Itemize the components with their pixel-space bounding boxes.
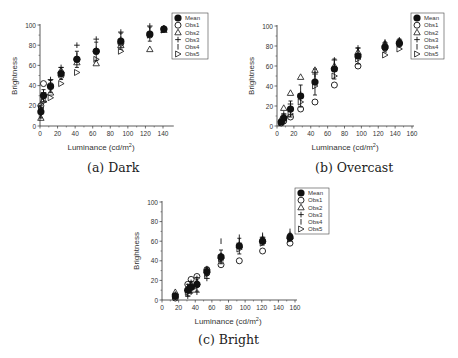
y-axis-label: Brightness — [132, 232, 141, 270]
x-tick-label: 60 — [208, 304, 216, 311]
obs3-marker — [185, 293, 191, 299]
y-tick-label: 80 — [151, 218, 159, 225]
mean-marker — [160, 25, 167, 32]
mean-marker — [93, 48, 100, 55]
legend: MeanObs1Obs2Obs3Obs4Obs5 — [411, 13, 444, 59]
x-tick-label: 60 — [324, 130, 332, 137]
x-tick-label: 20 — [54, 130, 62, 137]
y-tick-label: 80 — [266, 43, 274, 50]
legend-label: Obs1 — [185, 22, 200, 28]
obs3-marker — [147, 23, 153, 29]
x-tick-label: 0 — [160, 304, 164, 311]
mean-marker — [286, 234, 293, 241]
obs2-marker — [287, 90, 293, 96]
y-tick-label: 20 — [266, 103, 274, 110]
obs5-marker — [383, 52, 388, 58]
mean-marker — [297, 92, 304, 99]
x-tick-label: 0 — [38, 130, 42, 137]
legend-label: Obs4 — [185, 44, 200, 50]
y-tick-label: 100 — [262, 23, 273, 30]
obs5-marker — [75, 69, 80, 75]
obs1-marker — [331, 82, 337, 88]
legend-label: Obs3 — [308, 212, 323, 218]
y-tick-label: 80 — [29, 42, 37, 49]
legend-label: Obs1 — [424, 22, 439, 28]
mean-marker — [193, 281, 200, 288]
legend-label: Obs5 — [424, 51, 439, 57]
legend-label: Obs1 — [308, 197, 323, 203]
x-tick-label: 100 — [240, 304, 251, 311]
caption-bright: (c) Bright — [198, 332, 259, 347]
mean-marker — [40, 92, 47, 99]
y-tick-label: 0 — [32, 123, 36, 130]
x-axis-label: Luminance (cd/m2) — [311, 142, 378, 152]
x-tick-label: 80 — [341, 130, 349, 137]
x-tick-label: 120 — [256, 304, 267, 311]
x-tick-label: 40 — [72, 130, 80, 137]
obs5-marker — [48, 95, 53, 101]
mean-marker — [259, 238, 266, 245]
mean-marker — [331, 65, 338, 72]
mean-marker — [117, 38, 124, 45]
obs3-marker — [48, 77, 54, 83]
legend: MeanObs1Obs2Obs3Obs4Obs5 — [295, 188, 329, 234]
y-tick-label: 60 — [266, 63, 274, 70]
legend-label: Obs5 — [308, 226, 323, 232]
y-tick-label: 40 — [29, 82, 37, 89]
y-tick-label: 20 — [29, 102, 37, 109]
x-tick-label: 100 — [122, 130, 133, 137]
x-tick-label: 160 — [290, 304, 301, 311]
obs3-marker — [194, 289, 200, 295]
mean-marker — [172, 292, 179, 299]
chart-dark: 020406080100020406080100120140Brightness… — [0, 0, 230, 160]
y-tick-label: 40 — [151, 257, 159, 264]
mean-marker — [57, 70, 64, 77]
legend-mean-marker — [413, 14, 420, 21]
legend-label: Obs5 — [185, 51, 200, 57]
legend: MeanObs1Obs2Obs3Obs4Obs5 — [172, 13, 208, 59]
mean-marker — [311, 78, 318, 85]
mean-marker — [217, 253, 224, 260]
obs3-marker — [74, 42, 80, 48]
data-points — [37, 23, 167, 120]
caption-dark: (a) Dark — [87, 160, 139, 175]
mean-marker — [396, 39, 403, 46]
mean-marker — [354, 52, 361, 59]
x-tick-label: 20 — [175, 304, 183, 311]
x-tick-label: 120 — [373, 130, 384, 137]
x-tick-label: 60 — [89, 130, 97, 137]
y-tick-label: 0 — [269, 123, 273, 130]
x-tick-label: 100 — [356, 130, 367, 137]
obs2-marker — [297, 74, 303, 80]
obs1-marker — [312, 99, 318, 105]
mean-marker — [287, 105, 294, 112]
caption-overcast: (b) Overcast — [315, 160, 393, 175]
y-axis-label: Brightness — [10, 57, 19, 95]
y-tick-label: 0 — [154, 297, 158, 304]
obs3-marker — [204, 276, 210, 282]
y-axis-label: Brightness — [247, 57, 256, 95]
obs5-marker — [59, 81, 64, 87]
x-tick-label: 140 — [273, 304, 284, 311]
data-points — [172, 229, 294, 301]
y-tick-label: 40 — [266, 83, 274, 90]
obs1-marker — [41, 81, 47, 87]
y-tick-label: 100 — [147, 199, 158, 206]
legend-label: Obs2 — [185, 30, 200, 36]
panel-bright: 020406080100020406080100120140160Brightn… — [110, 180, 350, 358]
y-tick-label: 60 — [29, 62, 37, 69]
x-tick-label: 80 — [225, 304, 233, 311]
legend-label: Mean — [424, 15, 439, 21]
chart-bright: 020406080100020406080100120140160Brightn… — [110, 180, 350, 330]
legend-label: Mean — [185, 15, 200, 21]
y-tick-label: 20 — [151, 277, 159, 284]
mean-marker — [73, 56, 80, 63]
mean-marker — [280, 114, 287, 121]
x-tick-label: 20 — [290, 130, 298, 137]
obs3-marker — [118, 29, 124, 35]
legend-label: Obs3 — [185, 37, 200, 43]
x-tick-label: 40 — [192, 304, 200, 311]
data-points — [278, 37, 403, 126]
y-tick-label: 60 — [151, 238, 159, 245]
legend-label: Obs4 — [308, 219, 323, 225]
